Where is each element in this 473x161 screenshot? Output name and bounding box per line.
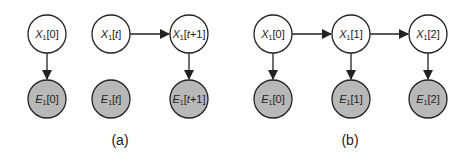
node-idx: [0] (47, 93, 59, 105)
node-e1-t: E1[t] (92, 80, 130, 118)
node-idx: ] (118, 93, 121, 105)
node-b-e1-0: E1[0] (254, 80, 292, 118)
node-idx: +1] (190, 28, 206, 40)
svg-text:E1[2]: E1[2] (416, 93, 439, 106)
node-idx: ] (118, 28, 121, 40)
panel-a-caption: (a) (111, 132, 128, 148)
svg-text:E1[0]: E1[0] (261, 93, 284, 106)
node-e1-0: E1[0] (28, 80, 66, 118)
svg-text:X1[1]: X1[1] (338, 28, 362, 41)
panel-b-caption: (b) (341, 132, 358, 148)
node-idx: [0] (47, 28, 59, 40)
svg-text:X1[t+1]: X1[t+1] (172, 28, 206, 41)
node-idx: [1] (351, 28, 363, 40)
svg-text:E1[1]: E1[1] (339, 93, 362, 106)
node-b-x1-2: X1[2] (409, 15, 447, 53)
panel-a: X1[0] E1[0] X1[t] E1[t] (28, 15, 208, 148)
node-b-e1-1: E1[1] (332, 80, 370, 118)
node-idx: +1] (190, 93, 206, 105)
node-e1-t-plus-1: E1[t+1] (170, 80, 208, 118)
node-x1-t-plus-1: X1[t+1] (170, 15, 208, 53)
node-b-e1-2: E1[2] (409, 80, 447, 118)
node-b-x1-0: X1[0] (254, 15, 292, 53)
svg-text:X1[2]: X1[2] (415, 28, 439, 41)
svg-text:X1[0]: X1[0] (260, 28, 284, 41)
dbn-diagram: X1[0] E1[0] X1[t] E1[t] (0, 0, 473, 161)
svg-text:X1[0]: X1[0] (34, 28, 58, 41)
node-idx: [2] (428, 28, 440, 40)
svg-text:E1[t+1]: E1[t+1] (173, 93, 206, 106)
node-idx: [1] (351, 93, 363, 105)
panel-b: X1[0] E1[0] X1[1] E1[1] (254, 15, 447, 148)
node-x1-t: X1[t] (92, 15, 130, 53)
svg-text:E1[0]: E1[0] (35, 93, 58, 106)
node-x1-0: X1[0] (28, 15, 66, 53)
node-idx: [0] (273, 93, 285, 105)
node-idx: [2] (428, 93, 440, 105)
node-b-x1-1: X1[1] (332, 15, 370, 53)
node-idx: [0] (273, 28, 285, 40)
